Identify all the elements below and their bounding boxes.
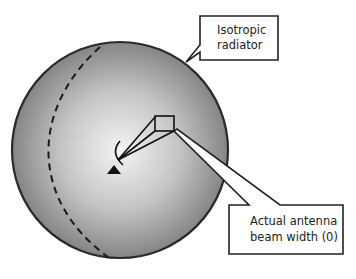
isotropic-radiator-diagram: Isotropic radiator Actual antenna beam w…	[0, 0, 356, 279]
isotropic-label-line2: radiator	[217, 38, 263, 52]
beam-label-line1: Actual antenna	[250, 214, 337, 228]
isotropic-label-line1: Isotropic	[217, 23, 266, 37]
beam-label-line2: beam width (0)	[250, 230, 338, 244]
